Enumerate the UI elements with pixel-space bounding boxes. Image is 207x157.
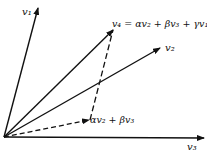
label-projection: αv₂ + βv₃ bbox=[90, 115, 134, 125]
dashed-component-line bbox=[90, 30, 113, 120]
label-v2: v₂ bbox=[165, 43, 175, 53]
vector-v1 bbox=[4, 8, 38, 137]
label-v4-equation: v₄ = αv₂ + βv₃ + γv₁ bbox=[112, 19, 207, 29]
label-v3: v₃ bbox=[187, 142, 197, 152]
vector-v3 bbox=[4, 137, 204, 138]
vector-projection bbox=[4, 120, 89, 137]
label-v1: v₁ bbox=[22, 7, 32, 17]
